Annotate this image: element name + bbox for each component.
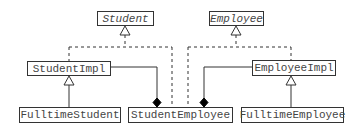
hollow-triangle-icon (231, 26, 241, 35)
composition-student-impl (110, 67, 161, 107)
filled-diamond-icon (153, 98, 161, 107)
class-fulltime-student: FulltimeStudent (19, 107, 121, 123)
class-fulltime-employee: FulltimeEmployee (241, 107, 344, 123)
hollow-triangle-icon (286, 76, 296, 85)
class-student-impl: StudentImpl (27, 61, 111, 76)
generalization-fulltime-employee (286, 76, 296, 107)
hollow-triangle-icon (120, 26, 130, 35)
class-employee: Employee (209, 11, 264, 26)
class-student: Student (97, 11, 154, 26)
class-student-employee: StudentEmployee (128, 107, 233, 123)
composition-employee-impl (200, 67, 252, 107)
class-employee-impl: EmployeeImpl (252, 60, 336, 76)
generalization-fulltime-student (64, 76, 74, 107)
filled-diamond-icon (200, 98, 208, 107)
hollow-triangle-icon (64, 76, 74, 85)
